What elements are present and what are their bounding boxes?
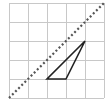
grid-diagram: [0, 0, 106, 103]
dotted-diagonal-line: [9, 3, 104, 98]
